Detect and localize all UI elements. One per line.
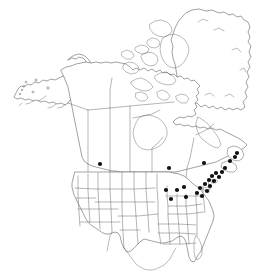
occurrence-dot — [203, 182, 207, 186]
occurrence-dot — [167, 166, 171, 170]
aleutian-island — [23, 85, 25, 87]
aleutian-island — [32, 91, 34, 93]
occurrence-dot — [182, 185, 186, 189]
occurrence-dot — [207, 178, 211, 182]
occurrence-dot — [98, 162, 102, 166]
occurrence-dot — [205, 189, 209, 193]
aleutian-island — [21, 89, 23, 91]
occurrence-dot — [195, 191, 199, 195]
occurrence-dot — [208, 184, 212, 188]
occurrence-dot — [175, 188, 179, 192]
occurrence-dot — [198, 186, 202, 190]
occurrence-dot — [228, 159, 232, 163]
aleutian-island — [47, 87, 49, 89]
occurrence-dot — [223, 166, 227, 170]
occurrence-dot — [220, 170, 224, 174]
occurrence-dot — [200, 194, 204, 198]
aleutian-island — [35, 79, 37, 81]
occurrence-dot — [233, 155, 237, 159]
occurrence-dot — [202, 161, 206, 165]
occurrence-dot — [169, 197, 173, 201]
occurrence-dot — [212, 179, 216, 183]
aleutian-island — [25, 81, 27, 83]
aleutian-island — [19, 93, 21, 95]
occurrence-dot — [210, 174, 214, 178]
occurrence-dot — [235, 151, 239, 155]
occurrence-dot — [217, 175, 221, 179]
map-canvas — [0, 0, 272, 275]
occurrence-dot — [184, 195, 188, 199]
occurrence-dot — [214, 171, 218, 175]
distribution-map — [0, 0, 272, 275]
occurrence-dot — [164, 188, 168, 192]
